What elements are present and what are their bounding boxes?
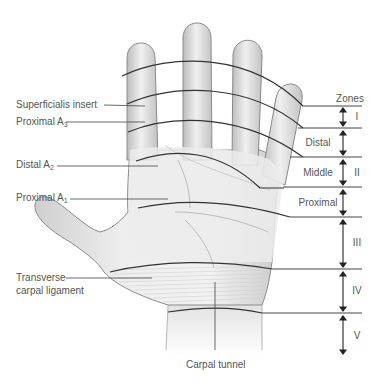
- subzone-distal: Distal: [298, 137, 338, 149]
- forearm-shape: [166, 305, 262, 355]
- zone-i-label: I: [350, 111, 364, 123]
- subzone-proximal: Proximal: [296, 197, 340, 209]
- label-proximal-a3: Proximal A3: [16, 116, 68, 131]
- hand-zones-diagram: Superficialis insert Proximal A3 Distal …: [0, 0, 377, 386]
- zone-iii-label: III: [350, 237, 364, 249]
- zone-iv-label: IV: [349, 285, 365, 297]
- label-transverse-carpal-ligament-line1: Transverse: [16, 272, 66, 284]
- label-distal-a2: Distal A2: [16, 159, 54, 174]
- middle-finger: [183, 23, 212, 160]
- subzone-middle: Middle: [298, 167, 338, 179]
- zone-ii-label: II: [350, 167, 364, 179]
- ring-finger: [232, 40, 262, 165]
- zone-v-label: V: [350, 330, 364, 342]
- label-carpal-tunnel: Carpal tunnel: [186, 359, 245, 371]
- label-superficialis-insert: Superficialis insert: [16, 99, 97, 111]
- zone-arrows: [340, 108, 346, 354]
- zones-header: Zones: [330, 93, 370, 105]
- label-transverse-carpal-ligament-line2: carpal ligament: [16, 285, 84, 297]
- label-proximal-a1: Proximal A1: [16, 192, 68, 207]
